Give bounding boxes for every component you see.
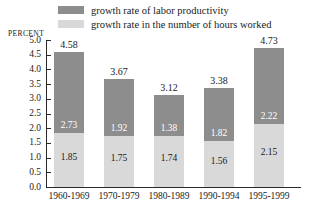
bar-segment-value-light: 2.15: [254, 147, 284, 158]
x-tick-label: 1995-1999: [241, 191, 297, 202]
bar-segment-value-dark: 2.73: [54, 120, 84, 131]
bar-segment-value-dark: 1.38: [154, 123, 184, 134]
x-tick-label: 1970-1979: [91, 191, 147, 202]
y-tick-label: 0.0: [6, 182, 46, 193]
bar-segment-labor-productivity[interactable]: 2.22: [254, 48, 284, 124]
legend-swatch-dark: [58, 6, 84, 14]
y-tick-label: 0.5: [6, 167, 46, 178]
bar-1980-1989[interactable]: 3.121.381.74: [154, 95, 184, 187]
bar-segment-hours-worked[interactable]: 1.75: [104, 136, 134, 187]
bar-1970-1979[interactable]: 3.671.921.75: [104, 79, 134, 187]
legend-label-labor-productivity: growth rate of labor productivity: [91, 5, 229, 16]
legend-swatch-light: [58, 20, 84, 28]
y-tick-mark: [47, 128, 51, 129]
plot-area: 5.04.54.03.53.02.52.01.51.00.50.0 4.582.…: [46, 40, 301, 188]
y-tick-mark: [47, 84, 51, 85]
bar-segment-labor-productivity[interactable]: 1.92: [104, 79, 134, 135]
bar-1990-1994[interactable]: 3.381.821.56: [204, 88, 234, 187]
y-tick-mark: [47, 158, 51, 159]
bar-segment-value-light: 1.85: [54, 152, 84, 163]
bar-total-label: 4.73: [248, 35, 290, 46]
bar-total-label: 4.58: [48, 39, 90, 50]
stacked-bar-chart: growth rate of labor productivity growth…: [0, 0, 309, 214]
y-tick-label: 2.5: [6, 108, 46, 119]
bar-1995-1999[interactable]: 4.732.222.15: [254, 48, 284, 187]
y-tick-label: 3.0: [6, 93, 46, 104]
bar-total-label: 3.38: [198, 75, 240, 86]
y-tick-mark: [47, 114, 51, 115]
y-tick-label: 5.0: [6, 35, 46, 46]
y-tick-mark: [47, 99, 51, 100]
y-tick-label: 4.5: [6, 49, 46, 60]
bar-segment-value-dark: 1.92: [104, 123, 134, 134]
y-tick-mark: [47, 55, 51, 56]
bar-1960-1969[interactable]: 4.582.731.85: [54, 52, 84, 187]
bar-segment-value-light: 1.75: [104, 153, 134, 164]
y-tick-mark: [47, 187, 51, 188]
x-tick-label: 1960-1969: [41, 191, 97, 202]
y-tick-mark: [47, 69, 51, 70]
bar-segment-value-light: 1.56: [204, 156, 234, 167]
y-tick-mark: [47, 172, 51, 173]
x-tick-label: 1990-1994: [191, 191, 247, 202]
y-tick-label: 3.5: [6, 79, 46, 90]
y-tick-label: 1.0: [6, 152, 46, 163]
bar-segment-value-dark: 1.82: [204, 128, 234, 139]
bar-segment-value-light: 1.74: [154, 153, 184, 164]
bar-segment-labor-productivity[interactable]: 2.73: [54, 52, 84, 132]
legend-item-hours-worked: growth rate in the number of hours worke…: [58, 18, 308, 30]
y-tick-label: 1.5: [6, 137, 46, 148]
x-axis-line: [46, 187, 301, 188]
bar-segment-hours-worked[interactable]: 2.15: [254, 124, 284, 187]
y-tick-mark: [47, 143, 51, 144]
legend-item-labor-productivity: growth rate of labor productivity: [58, 4, 308, 16]
bar-segment-hours-worked[interactable]: 1.74: [154, 136, 184, 187]
bar-segment-labor-productivity[interactable]: 1.38: [154, 95, 184, 136]
y-tick-label: 2.0: [6, 123, 46, 134]
legend-label-hours-worked: growth rate in the number of hours worke…: [91, 19, 272, 30]
bar-segment-labor-productivity[interactable]: 1.82: [204, 88, 234, 142]
x-tick-label: 1980-1989: [141, 191, 197, 202]
bar-segment-hours-worked[interactable]: 1.56: [204, 141, 234, 187]
bar-total-label: 3.67: [98, 66, 140, 77]
chart-legend: growth rate of labor productivity growth…: [58, 4, 308, 32]
bar-total-label: 3.12: [148, 82, 190, 93]
bar-segment-hours-worked[interactable]: 1.85: [54, 133, 84, 187]
y-tick-label: 4.0: [6, 64, 46, 75]
bar-segment-value-dark: 2.22: [254, 111, 284, 122]
